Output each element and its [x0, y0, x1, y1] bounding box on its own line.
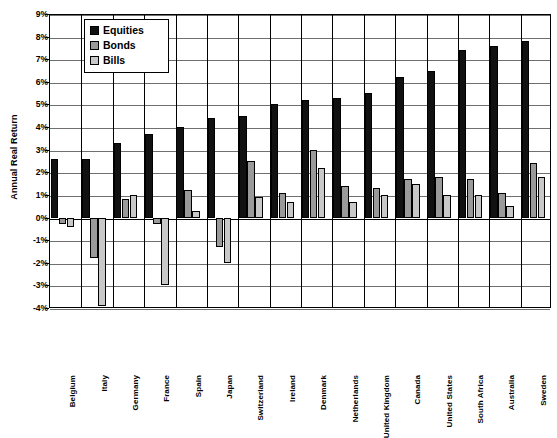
bar-equities — [365, 93, 373, 217]
x-axis-label: Germany — [131, 375, 140, 410]
bar-bills — [130, 195, 138, 218]
bar-bonds — [279, 193, 287, 218]
y-axis-tick-label: 3% — [8, 145, 48, 155]
bar-bills — [287, 202, 295, 218]
bar-equities — [145, 134, 153, 218]
bar-bills — [98, 218, 106, 306]
bar-bonds — [373, 188, 381, 217]
bar-group — [175, 14, 206, 308]
bar-bonds — [153, 218, 161, 225]
bar-equities — [302, 100, 310, 218]
bar-bills — [255, 197, 263, 217]
bar-bills — [475, 195, 483, 218]
bar-group — [520, 14, 551, 308]
legend-label-bills: Bills — [103, 55, 125, 66]
bar-equities — [333, 98, 341, 218]
x-axis-label: Sweden — [539, 375, 548, 406]
y-axis-title: Annual Real Return — [9, 62, 19, 252]
bar-bonds — [435, 177, 443, 218]
bar-bonds — [530, 163, 538, 217]
legend-swatch-bonds-icon — [90, 41, 99, 50]
bar-group — [394, 14, 425, 308]
legend-swatch-equities-icon — [90, 26, 99, 35]
y-axis-tick-label: 8% — [8, 32, 48, 42]
x-axis-label: Ireland — [288, 375, 297, 402]
y-axis-tick-label: 6% — [8, 77, 48, 87]
bar-equities — [239, 116, 247, 218]
bar-equities — [427, 71, 435, 218]
bar-bills — [349, 202, 357, 218]
x-axis-label: Belgium — [68, 375, 77, 407]
bar-equities — [271, 104, 279, 217]
legend-label-equities: Equities — [103, 25, 144, 36]
bar-bills — [381, 195, 389, 218]
bar-group — [488, 14, 519, 308]
bar-equities — [208, 118, 216, 218]
x-axis-label: France — [162, 375, 171, 402]
bar-group — [363, 14, 394, 308]
x-axis-label: Italy — [100, 375, 109, 392]
y-axis-tick-label: 5% — [8, 99, 48, 109]
x-axis-label: Spain — [194, 375, 203, 397]
x-axis-label: United Kingdom — [382, 375, 391, 438]
legend-item-equities: Equities — [90, 23, 163, 38]
bar-equities — [114, 143, 122, 218]
bar-bills — [161, 218, 169, 286]
legend-label-bonds: Bonds — [103, 40, 136, 51]
bar-group — [269, 14, 300, 308]
bar-equities — [51, 159, 59, 218]
bar-bonds — [184, 190, 192, 217]
x-axis-label: Japan — [225, 375, 234, 399]
legend-item-bonds: Bonds — [90, 38, 163, 53]
bar-bonds — [404, 179, 412, 217]
bar-bills — [412, 184, 420, 218]
y-axis-tick-label: -1% — [8, 235, 48, 245]
bar-bonds — [341, 186, 349, 218]
bar-bills — [318, 168, 326, 218]
x-axis-label: United States — [445, 375, 454, 427]
x-axis-category-labels: BelgiumItalyGermanyFranceSpainJapanSwitz… — [49, 309, 551, 378]
bar-bonds — [216, 218, 224, 247]
legend-item-bills: Bills — [90, 53, 163, 68]
bar-equities — [396, 77, 404, 217]
x-axis-label: Australia — [507, 375, 516, 410]
bar-bills — [67, 218, 75, 227]
bar-group — [331, 14, 362, 308]
bar-bonds — [59, 218, 67, 225]
y-axis-tick-label: 2% — [8, 167, 48, 177]
chart-legend: Equities Bonds Bills — [84, 19, 169, 73]
y-axis-tick-label: 4% — [8, 122, 48, 132]
bar-bills — [506, 206, 514, 217]
x-axis-label: Switzerland — [256, 375, 265, 421]
bar-bonds — [122, 199, 130, 217]
y-axis-tick-label: -3% — [8, 280, 48, 290]
bar-bills — [538, 177, 546, 218]
bar-bonds — [247, 161, 255, 218]
bar-group — [49, 14, 80, 308]
x-axis-label: South Africa — [476, 375, 485, 423]
bar-equities — [490, 46, 498, 218]
bar-bonds — [467, 179, 475, 217]
bar-bills — [224, 218, 232, 263]
bar-group — [206, 14, 237, 308]
y-axis-tick-label: -2% — [8, 258, 48, 268]
bar-bills — [192, 211, 200, 218]
x-axis-label: Canada — [413, 375, 422, 405]
y-axis-tick-label: 7% — [8, 54, 48, 64]
bar-equities — [459, 50, 467, 217]
y-axis-tick-label: -4% — [8, 303, 48, 313]
bar-bonds — [90, 218, 98, 259]
bar-bonds — [310, 150, 318, 218]
bar-equities — [522, 41, 530, 217]
bar-bonds — [498, 193, 506, 218]
x-axis-label: Netherlands — [351, 375, 360, 422]
bar-group — [457, 14, 488, 308]
bar-equities — [176, 127, 184, 217]
bar-group — [237, 14, 268, 308]
bar-group — [426, 14, 457, 308]
y-axis-tick-label: 9% — [8, 9, 48, 19]
y-axis-tick-label: 1% — [8, 190, 48, 200]
bar-bills — [443, 195, 451, 218]
y-axis-tick-label: 0% — [8, 213, 48, 223]
